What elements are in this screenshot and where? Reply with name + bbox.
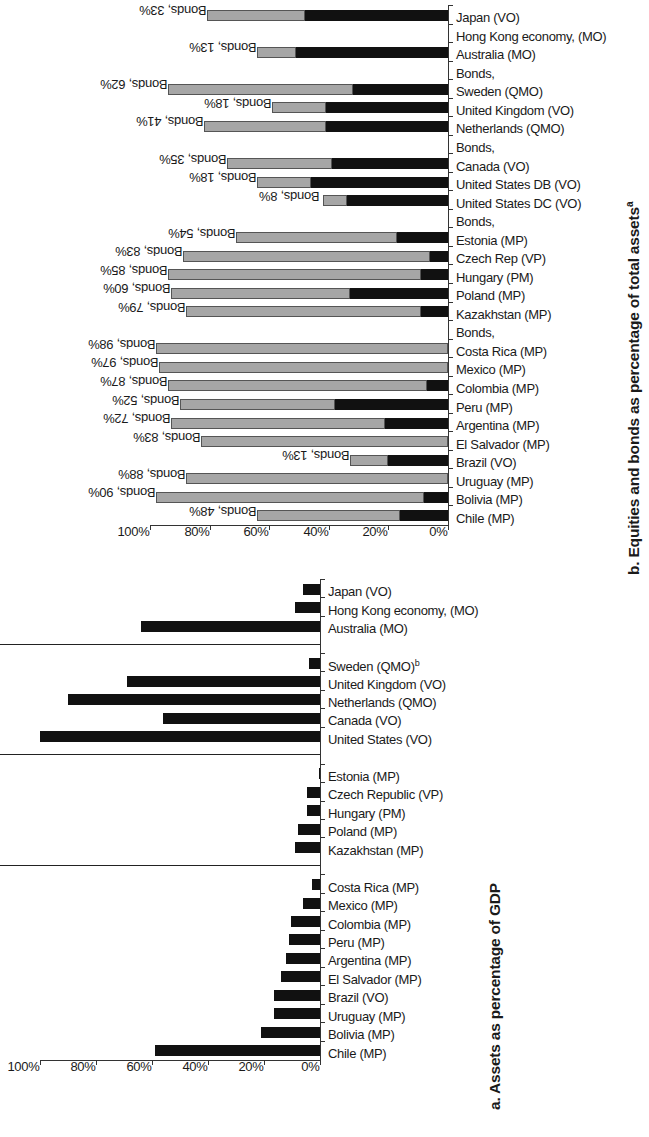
axis-category-label: Uruguay (MP) bbox=[456, 474, 533, 489]
axis-category-label: Brazil (VO) bbox=[328, 990, 388, 1005]
bar-stacked bbox=[350, 455, 448, 466]
title-superscript: a bbox=[624, 202, 635, 207]
bar-stacked bbox=[180, 399, 448, 410]
bar-segment-bonds bbox=[168, 269, 421, 280]
axis-category-label: United States DB (VO) bbox=[456, 177, 580, 192]
axis-category-label: Bolivia (MP) bbox=[456, 492, 522, 507]
chart-b-x-tick bbox=[448, 61, 453, 62]
bar-segment-equities bbox=[305, 10, 448, 21]
bar-segment-bonds bbox=[171, 288, 350, 299]
bar bbox=[155, 1045, 320, 1056]
bar-segment-equities bbox=[353, 84, 448, 95]
axis-category-label: El Salvador (MP) bbox=[456, 437, 549, 452]
bar-stacked bbox=[272, 102, 448, 113]
chart-a-x-tick bbox=[320, 967, 325, 968]
bar-segment-bonds bbox=[323, 195, 347, 206]
bar-segment-equities bbox=[400, 510, 448, 521]
bar bbox=[286, 953, 320, 964]
bar-segment-bonds bbox=[350, 455, 389, 466]
bar-data-label: Bonds, 85% bbox=[100, 262, 167, 277]
chart-b-plot: 0%20%40%60%80%100%Bonds, 48%Chile (MP)Bo… bbox=[150, 6, 448, 525]
chart-b-y-tick bbox=[210, 525, 211, 530]
group-divider bbox=[0, 644, 320, 645]
axis-category-label: Mexico (MP) bbox=[328, 898, 398, 913]
axis-category-label: Costa Rica (MP) bbox=[456, 344, 547, 359]
chart-a-x-tick bbox=[320, 985, 325, 986]
bar-segment-bonds bbox=[257, 177, 311, 188]
panel-equities-and-bonds: b. Equities and bonds as percentage of t… bbox=[0, 0, 649, 570]
bar bbox=[163, 713, 320, 724]
axis-category-label: Kazakhstan (MP) bbox=[456, 307, 551, 322]
bar bbox=[309, 658, 320, 669]
chart-a-x-tick bbox=[320, 727, 325, 728]
chart-b-x-tick bbox=[448, 431, 453, 432]
bar bbox=[68, 695, 320, 706]
axis-category-label: Netherlands (QMO) bbox=[456, 121, 564, 136]
bar-segment-equities bbox=[388, 455, 448, 466]
chart-a-y-ticklabel: 20% bbox=[224, 1059, 264, 1074]
bar-data-label: Bonds, 35% bbox=[160, 151, 227, 166]
bar bbox=[261, 1027, 320, 1038]
panel-assets-pct-gdp: a. Assets as percentage of GDP0%20%40%60… bbox=[0, 570, 649, 1137]
group-divider bbox=[0, 865, 320, 866]
chart-b-x-tick bbox=[448, 79, 453, 80]
bar-segment-bonds bbox=[183, 251, 430, 262]
axis-category-label: Uruguay (MP) bbox=[328, 1009, 405, 1024]
bar bbox=[291, 916, 320, 927]
axis-category-label: Japan (VO) bbox=[328, 584, 391, 599]
axis-category-label: United States DC (VO) bbox=[456, 196, 581, 211]
bar-stacked bbox=[168, 269, 448, 280]
axis-category-label: Hong Kong economy, (MO) bbox=[328, 603, 478, 618]
chart-a-x-tick bbox=[320, 911, 325, 912]
chart-a-y-ticklabel: 60% bbox=[112, 1059, 152, 1074]
chart-a-plot: 0%20%40%60%80%100%Chile (MP)Bolivia (MP)… bbox=[40, 580, 320, 1060]
chart-b-x-tick bbox=[448, 153, 453, 154]
axis-category-label: Mexico (MP) bbox=[456, 362, 526, 377]
bar bbox=[307, 787, 320, 798]
axis-category-label: Brazil (VO) bbox=[456, 455, 516, 470]
bar bbox=[298, 824, 320, 835]
chart-b-y-tick bbox=[388, 525, 389, 530]
bar-stacked bbox=[201, 436, 448, 447]
bar-segment-equities bbox=[311, 177, 448, 188]
bar-segment-bonds bbox=[168, 380, 427, 391]
chart-b-y-ticklabel: 40% bbox=[288, 524, 328, 539]
bar bbox=[274, 990, 320, 1001]
bar bbox=[303, 898, 320, 909]
chart-a-x-tick bbox=[320, 801, 325, 802]
chart-b-x-tick bbox=[448, 339, 453, 340]
axis-category-label: Chile (MP) bbox=[456, 511, 514, 526]
bar-data-label: Bonds, 13% bbox=[282, 448, 349, 463]
bar-data-label: Bonds, 98% bbox=[88, 336, 155, 351]
chart-a-x-tick bbox=[320, 893, 325, 894]
bar-data-label: Bonds, 52% bbox=[112, 392, 179, 407]
bar-data-label: Bonds, 90% bbox=[88, 485, 155, 500]
bar-data-label: Bonds, 79% bbox=[118, 299, 185, 314]
axis-category-label: Colombia (MP) bbox=[456, 381, 539, 396]
bar-segment-bonds bbox=[257, 47, 296, 58]
bar bbox=[303, 584, 320, 595]
chart-a-x-tick bbox=[320, 616, 325, 617]
chart-a-y-ticklabel: 40% bbox=[168, 1059, 208, 1074]
chart-b-x-tick bbox=[448, 190, 453, 191]
chart-b-y-tick bbox=[329, 525, 330, 530]
axis-category-label: Poland (MP) bbox=[328, 824, 397, 839]
bar-segment-equities bbox=[335, 399, 448, 410]
axis-category-label: Australia (MO) bbox=[456, 47, 536, 62]
axis-category-label: Netherlands (QMO) bbox=[328, 695, 436, 710]
chart-b-x-axis bbox=[448, 6, 449, 526]
rotated-chart-b: b. Equities and bonds as percentage of t… bbox=[0, 0, 648, 583]
bar bbox=[281, 971, 320, 982]
chart-a-x-tick bbox=[320, 948, 325, 949]
bar-segment-equities bbox=[397, 232, 448, 243]
chart-b-x-tick bbox=[448, 116, 453, 117]
axis-category-label: Chile (MP) bbox=[328, 1046, 386, 1061]
chart-a-y-tick bbox=[320, 1060, 321, 1065]
axis-category-label: United Kingdom (VO) bbox=[328, 677, 446, 692]
chart-a-x-tick bbox=[320, 690, 325, 691]
axis-category-label: Sweden (QMO)b bbox=[328, 658, 419, 674]
bar-stacked bbox=[257, 47, 448, 58]
bar-stacked bbox=[204, 121, 448, 132]
bar-segment-bonds bbox=[272, 102, 326, 113]
axis-category-label: United States (VO) bbox=[328, 732, 432, 747]
